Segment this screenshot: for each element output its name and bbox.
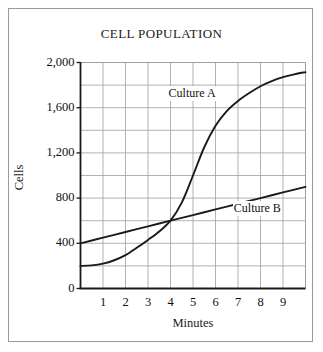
x-tick-label: 8	[251, 295, 271, 310]
x-tick-label: 4	[161, 295, 181, 310]
x-tick-label: 3	[138, 295, 158, 310]
x-tick-label: 2	[116, 295, 136, 310]
x-tick-label: 1	[93, 295, 113, 310]
y-tick-label: 0	[29, 281, 75, 296]
y-tick-label: 800	[29, 190, 75, 205]
series-label-1: Culture B	[233, 201, 282, 216]
x-tick-label: 9	[273, 295, 293, 310]
y-tick-label: 1,600	[29, 100, 75, 115]
x-tick-label: 7	[228, 295, 248, 310]
x-tick-label: 6	[206, 295, 226, 310]
chart-figure: CELL POPULATION Cells Minutes 04008001,2…	[0, 0, 323, 352]
x-tick-label: 5	[183, 295, 203, 310]
series-label-0: Culture A	[168, 86, 217, 101]
y-tick-label: 2,000	[29, 55, 75, 70]
y-tick-label: 1,200	[29, 145, 75, 160]
y-tick-label: 400	[29, 235, 75, 250]
